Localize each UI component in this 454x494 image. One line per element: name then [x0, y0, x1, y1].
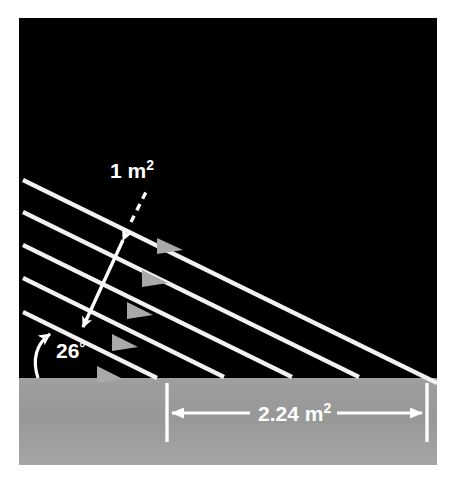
- ground-region: [19, 378, 437, 465]
- ground-span-label: 2.24 m2: [258, 400, 331, 425]
- beam-width-label-text: 1 m: [110, 159, 146, 182]
- ground-span-label-exponent: 2: [323, 400, 331, 416]
- sky-region: [19, 18, 437, 378]
- diagram-canvas: 1 m2 26° 2.24 m2: [0, 0, 454, 494]
- incidence-angle-value: 26: [56, 339, 79, 362]
- solar-incidence-diagram: 1 m2 26° 2.24 m2: [0, 0, 454, 494]
- incidence-angle-degree-symbol: °: [79, 339, 85, 356]
- ground-span-label-text: 2.24 m: [258, 402, 323, 425]
- beam-width-label-exponent: 2: [146, 157, 154, 173]
